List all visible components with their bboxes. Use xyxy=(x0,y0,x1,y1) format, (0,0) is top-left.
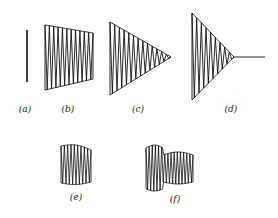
panel-a-label: (a) xyxy=(19,104,31,114)
panel-f-label: (f) xyxy=(170,194,180,204)
panel-d-label: (d) xyxy=(225,104,238,114)
panel-d-shape xyxy=(192,13,234,100)
panel-b-shape xyxy=(45,25,93,90)
panel-e-label: (e) xyxy=(70,192,82,202)
panel-b-label: (b) xyxy=(62,104,75,114)
panel-c-shape xyxy=(110,22,171,95)
panel-e-shape xyxy=(61,145,91,185)
panel-c-label: (c) xyxy=(132,104,144,114)
panel-f-shape xyxy=(146,145,193,191)
